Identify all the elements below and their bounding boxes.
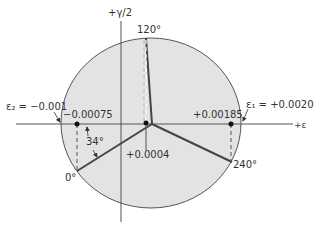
label-0: 0° [65, 172, 76, 183]
eps1-leader [243, 109, 248, 121]
point-right [229, 122, 234, 127]
point-center [144, 121, 149, 126]
gamma-axis-label: +γ/2 [108, 7, 132, 18]
left-point-label: −0.00075 [63, 109, 113, 120]
label-240: 240° [233, 159, 257, 170]
point-left [75, 122, 80, 127]
right-point-label: +0.00185 [193, 109, 243, 120]
eps2-leader [54, 112, 60, 122]
label-120: 120° [137, 24, 161, 35]
angle-label: 34° [86, 136, 104, 147]
eps1-label: ε₁ = +0.0020 [246, 99, 314, 110]
eps2-label: ε₂ = −0.001 [6, 101, 67, 112]
mohr-circle-diagram: +γ/2 +ε 120° 0° 240° ε₂ = −0.001 ε₁ = +0… [0, 0, 315, 235]
center-point-label: +0.0004 [126, 149, 169, 160]
epsilon-axis-label: +ε [294, 120, 307, 130]
